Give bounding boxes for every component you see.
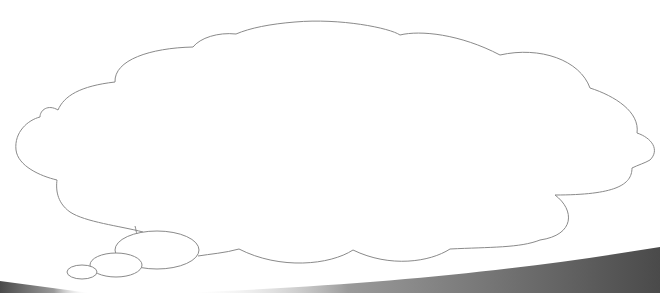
trail-circle-medium [90,253,142,277]
trail-circle-small [67,265,97,279]
thought-cloud [16,21,655,263]
thought-trail [67,231,199,279]
swoosh-left [0,281,90,293]
thought-bubble-scene: Empty thought bubble [0,0,660,293]
